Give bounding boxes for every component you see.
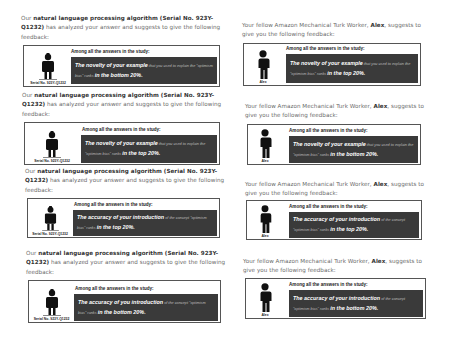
robot-icon [39, 53, 57, 81]
ai-feedback-box-1: Serial No. 923Y-Q1232 Among all the answ… [23, 45, 220, 87]
ai-caption: Serial No. 923Y-Q1232 [34, 317, 70, 322]
box-headline: Among all the answers in the study: [71, 49, 150, 54]
human-feedback-panel-2: Your fellow Amazon Mechanical Turk Worke… [245, 102, 427, 121]
person-icon [258, 129, 272, 159]
box-headline: Among all the answers in the study: [286, 46, 365, 51]
human-feedback-box-3: Alex Among all the answers in the study:… [246, 200, 422, 240]
ai-feedback-panel-4: Our natural language processing algorith… [26, 249, 226, 277]
human-feedback-panel-4: Your fellow Amazon Mechanical Turk Worke… [243, 257, 429, 276]
box-headline: Among all the answers in the study: [82, 127, 161, 132]
ai-intro-text: Our natural language processing algorith… [26, 249, 226, 277]
ai-caption: Serial No. 923Y-Q1232 [34, 159, 70, 164]
human-feedback-panel-3: Your fellow Amazon Mechanical Turk Worke… [245, 180, 427, 199]
feedback-message: The novelty of your example that you use… [286, 54, 418, 83]
box-headline: Among all the answers in the study: [289, 282, 368, 287]
human-feedback-box-4: Alex Among all the answers in the study:… [245, 278, 426, 319]
box-headline: Among all the answers in the study: [289, 128, 368, 133]
human-feedback-box-1: Alex Among all the answers in the study:… [243, 43, 421, 86]
human-intro-text: Your fellow Amazon Mechanical Turk Worke… [245, 102, 427, 121]
feedback-message: The novelty of your example that you use… [289, 136, 418, 163]
human-feedback-panel-1: Your fellow Amazon Mechanical Turk Worke… [242, 21, 424, 40]
feedback-message: The accuracy of your introduction of the… [289, 212, 419, 238]
human-feedback-box-2: Alex Among all the answers in the study:… [247, 124, 421, 165]
human-caption: Alex [261, 313, 268, 318]
box-headline: Among all the answers in the study: [74, 202, 153, 207]
feedback-message: The accuracy of your introduction of the… [73, 210, 217, 236]
ai-intro-text: Our natural language processing algorith… [22, 91, 224, 119]
robot-icon [43, 289, 61, 317]
robot-icon [42, 206, 59, 232]
person-icon [258, 283, 272, 313]
ai-feedback-box-4: Serial No. 923Y-Q1232 Among all the answ… [28, 280, 221, 323]
human-intro-text: Your fellow Amazon Mechanical Turk Worke… [243, 257, 429, 276]
feedback-message: The accuracy of you introduction of the … [74, 294, 218, 321]
ai-feedback-box-3: Serial No. 923Y-Q1232 Among all the answ… [27, 198, 220, 238]
ai-feedback-panel-2: Our natural language processing algorith… [22, 91, 224, 119]
ai-intro-text: Our natural language processing algorith… [25, 167, 225, 195]
box-headline: Among all the answers in the study: [75, 286, 154, 291]
ai-feedback-panel-1: Our natural language processing algorith… [21, 14, 223, 42]
human-caption: Alex [261, 234, 268, 239]
ai-feedback-panel-3: Our natural language processing algorith… [25, 167, 225, 195]
feedback-message: The accuracy of your introduction of the… [289, 290, 423, 317]
feedback-message: The novelty of your example that you use… [71, 57, 217, 84]
ai-intro-text: Our natural language processing algorith… [21, 14, 223, 42]
human-caption: Alex [259, 80, 266, 85]
human-intro-text: Your fellow Amazon Mechanical Turk Worke… [242, 21, 424, 40]
human-intro-text: Your fellow Amazon Mechanical Turk Worke… [245, 180, 427, 199]
ai-feedback-box-2: Serial No. 923Y-Q1232 Among all the answ… [24, 122, 220, 165]
ai-caption: Serial No. 923Y-Q1232 [30, 81, 66, 86]
feedback-message: The novelty of your example that you use… [81, 135, 217, 163]
ai-caption: Serial No. 923Y-Q1232 [32, 232, 68, 237]
human-caption: Alex [261, 159, 268, 164]
robot-icon [43, 131, 61, 159]
person-icon [256, 50, 270, 80]
person-icon [258, 205, 272, 234]
box-headline: Among all the answers in the study: [289, 204, 368, 209]
